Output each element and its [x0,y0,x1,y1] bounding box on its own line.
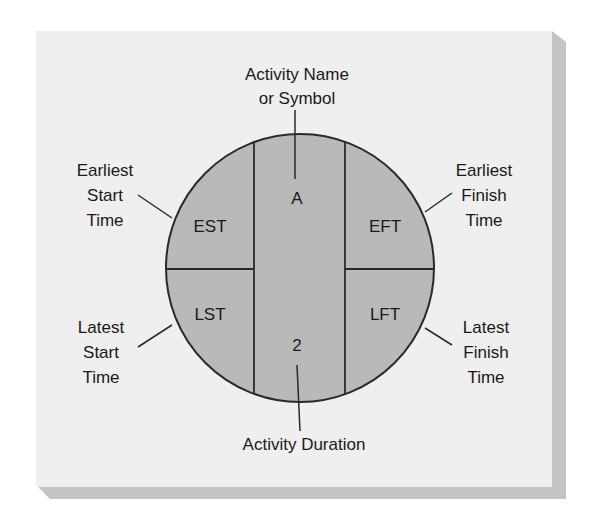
cell-lft: LFT [370,305,400,324]
cell-est: EST [193,217,226,236]
aon-node-diagram: A 2 EST EFT LST LFT Activity Name or Sym… [0,0,595,527]
callout-lower-left-line-1: Latest [78,318,125,337]
callout-top-line-2: or Symbol [259,89,336,108]
callout-lower-left: Latest Start Time [78,318,125,387]
cell-duration: 2 [292,336,301,355]
callout-lower-left-line-2: Start [83,343,119,362]
callout-upper-left-line-1: Earliest [77,161,134,180]
callout-bottom: Activity Duration [243,435,366,454]
callout-lower-right: Latest Finish Time [463,318,510,387]
callout-upper-right-line-2: Finish [461,186,506,205]
callout-upper-left-line-3: Time [86,211,123,230]
cell-eft: EFT [369,217,401,236]
callout-lower-right-line-1: Latest [463,318,510,337]
callout-upper-right-line-1: Earliest [456,161,513,180]
callout-upper-left-line-2: Start [87,186,123,205]
callout-bottom-line-1: Activity Duration [243,435,366,454]
cell-lst: LST [194,305,225,324]
callout-lower-left-line-3: Time [82,368,119,387]
node-circle [166,134,434,402]
cell-activity-name: A [291,189,303,208]
callout-upper-right-line-3: Time [465,211,502,230]
callout-lower-right-line-2: Finish [463,343,508,362]
callout-top-line-1: Activity Name [245,65,349,84]
callout-lower-right-line-3: Time [467,368,504,387]
